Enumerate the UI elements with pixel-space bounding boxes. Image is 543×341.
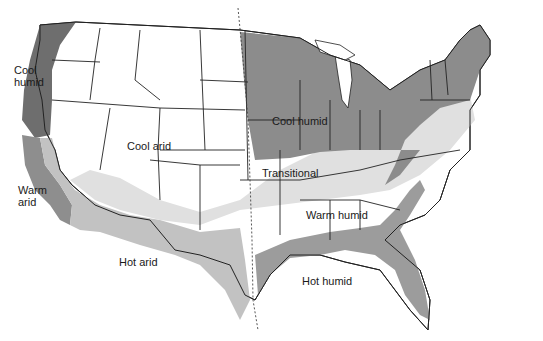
label-cool-humid-west: Cool humid: [14, 64, 44, 88]
label-hot-humid: Hot humid: [302, 275, 352, 287]
label-cool-arid: Cool arid: [127, 140, 171, 152]
label-hot-arid: Hot arid: [119, 256, 158, 268]
label-warm-humid: Warm humid: [306, 209, 368, 221]
label-cool-humid-east: Cool humid: [272, 115, 328, 127]
label-warm-arid: Warm arid: [18, 184, 47, 208]
label-transitional: Transitional: [262, 167, 318, 179]
